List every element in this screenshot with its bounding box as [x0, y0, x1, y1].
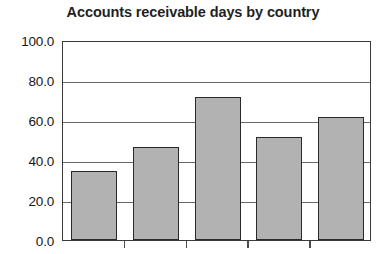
bar: [318, 117, 364, 240]
bar: [195, 97, 241, 240]
y-axis-tick-label: 0.0: [36, 234, 54, 249]
y-axis: 0.020.040.060.080.0100.0: [0, 0, 58, 254]
y-axis-tick-label: 80.0: [29, 74, 54, 89]
bar: [71, 171, 117, 240]
bar: [133, 147, 179, 240]
bars-group: [63, 42, 370, 240]
y-axis-tick-label: 60.0: [29, 114, 54, 129]
x-axis-tick: [309, 241, 310, 248]
x-axis-tick: [186, 241, 187, 248]
y-axis-tick-label: 100.0: [21, 34, 54, 49]
bar-chart: Accounts receivable days by country 0.02…: [0, 0, 386, 254]
bar: [256, 137, 302, 240]
y-axis-tick-label: 20.0: [29, 194, 54, 209]
y-axis-tick-label: 40.0: [29, 154, 54, 169]
x-axis-tick: [247, 241, 248, 248]
plot-area: [62, 41, 371, 241]
x-axis-tick: [124, 241, 125, 248]
x-axis-ticks: [62, 241, 371, 254]
